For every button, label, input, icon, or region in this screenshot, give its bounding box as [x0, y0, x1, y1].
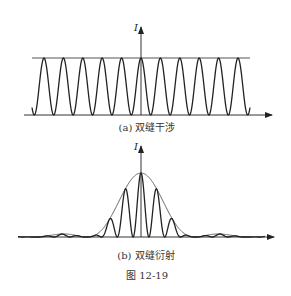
panel-b-intensity-label: I	[134, 141, 138, 152]
panel-b-diffraction	[18, 146, 274, 237]
panel-a-interference	[24, 27, 272, 115]
panel-a-intensity-label: I	[134, 22, 138, 33]
panel-a-caption: (a) 双缝干涉	[119, 119, 176, 134]
figure-caption: 图 12-19	[126, 267, 168, 282]
panel-b-caption: (b) 双缝衍射	[117, 247, 174, 262]
